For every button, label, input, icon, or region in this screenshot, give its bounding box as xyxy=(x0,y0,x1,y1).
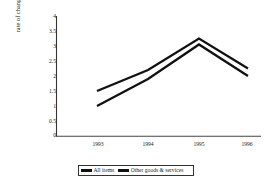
y-tick-label-3: 3 xyxy=(34,43,56,49)
y-tick-label-1-5: 1.5 xyxy=(34,88,56,94)
y-tick-label-0: 0 xyxy=(34,132,56,138)
x-tick-label-1995: 1995 xyxy=(186,141,212,148)
legend-label-all-items: All items xyxy=(94,167,115,174)
legend-swatch-icon xyxy=(81,169,92,171)
y-axis-title: rate of change of prices (% p.a.) xyxy=(14,0,26,46)
x-tick-label-1993: 1993 xyxy=(85,141,111,148)
legend-label-other-goods-services: Other goods & services xyxy=(131,167,184,174)
y-tick-label-3-5: 3.5 xyxy=(34,28,56,34)
legend-entry-other-goods-services: Other goods & services xyxy=(118,167,183,174)
chart-legend: All items Other goods & services xyxy=(78,165,194,176)
y-tick-label-0-5: 0.5 xyxy=(34,118,56,124)
legend-swatch-icon xyxy=(118,169,129,171)
y-tick-label-2: 2 xyxy=(34,73,56,79)
y-tick-label-2-5: 2.5 xyxy=(34,58,56,64)
series-line-all-items xyxy=(97,39,248,92)
y-tick-label-1: 1 xyxy=(34,103,56,109)
y-axis-tick-labels: 4 3.5 3 2.5 2 1.5 1 0.5 0 xyxy=(32,0,56,183)
y-tick-label-4: 4 xyxy=(34,13,56,19)
legend-entry-all-items: All items xyxy=(81,167,114,174)
x-tick-label-1994: 1994 xyxy=(135,141,161,148)
line-chart: rate of change of prices (% p.a.) 4 3.5 … xyxy=(0,0,266,183)
x-tick-label-1996: 1996 xyxy=(234,141,260,148)
